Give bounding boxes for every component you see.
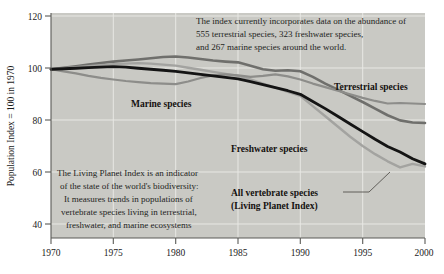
living-planet-index-chart: 120 100 80 60 40 1970 1975 1980 1985 199… bbox=[0, 0, 444, 274]
bottom-annotation-line-5: freshwater, and marine ecosystems bbox=[66, 220, 192, 230]
bottom-annotation-line-4: vertebrate species living in terrestrial… bbox=[61, 207, 197, 217]
series-label-all-vertebrates-line1: All vertebrate species bbox=[231, 188, 318, 198]
series-label-terrestrial: Terrestrial species bbox=[334, 82, 408, 92]
bottom-annotation-line-3: It measures trends in populations of bbox=[64, 194, 193, 204]
x-tick-label-1980: 1980 bbox=[166, 248, 185, 258]
x-axis-ticks bbox=[51, 238, 425, 244]
top-annotation-line-3: and 267 marine species around the world. bbox=[196, 42, 346, 52]
x-tick-label-1970: 1970 bbox=[42, 248, 61, 258]
series-label-marine: Marine species bbox=[131, 99, 192, 109]
y-axis-ticks bbox=[45, 16, 51, 224]
x-tick-label-1975: 1975 bbox=[104, 248, 123, 258]
y-tick-label-60: 60 bbox=[33, 168, 43, 178]
x-tick-label-1990: 1990 bbox=[291, 248, 310, 258]
y-tick-label-120: 120 bbox=[28, 12, 43, 22]
x-tick-label-2000: 2000 bbox=[415, 248, 434, 258]
y-axis-title: Population Index = 100 in 1970 bbox=[6, 65, 16, 186]
bottom-annotation: The Living Planet Index is an indicator … bbox=[57, 168, 199, 230]
x-tick-label-1995: 1995 bbox=[353, 248, 372, 258]
x-tick-label-1985: 1985 bbox=[229, 248, 248, 258]
top-annotation-line-1: The index currently incorporates data on… bbox=[196, 16, 406, 26]
y-tick-label-100: 100 bbox=[28, 64, 43, 74]
y-tick-label-80: 80 bbox=[33, 116, 43, 126]
top-annotation-line-2: 555 terrestrial species, 323 freshwater … bbox=[196, 29, 363, 39]
series-label-all-vertebrates-line2: (Living Planet Index) bbox=[231, 201, 318, 212]
bottom-annotation-line-2: of the state of the world's biodiversity… bbox=[60, 181, 199, 191]
y-tick-label-40: 40 bbox=[33, 220, 43, 230]
series-label-freshwater: Freshwater species bbox=[231, 144, 308, 154]
bottom-annotation-line-1: The Living Planet Index is an indicator bbox=[57, 168, 198, 178]
